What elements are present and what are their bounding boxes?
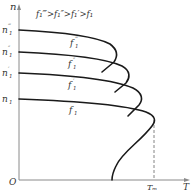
curve-label-f1-double-prime: f ″ 1 (67, 56, 77, 70)
svg-text:1: 1 (75, 43, 79, 49)
svg-text:1: 1 (73, 64, 77, 70)
svg-text:‴: ‴ (8, 22, 12, 29)
svg-text:1: 1 (9, 30, 13, 36)
svg-text:1: 1 (73, 85, 77, 91)
svg-text:′: ′ (73, 77, 75, 84)
speed-label-n1: n 1 (2, 94, 13, 105)
svg-text:1: 1 (74, 110, 78, 116)
torque-speed-diagram: n f₁‴>f₁″>f₁′>f₁ n ‴ 1 n ″ 1 n ′ 1 n 1 f… (0, 0, 195, 196)
frequency-relation-text: f₁‴>f₁″>f₁′>f₁ (35, 9, 93, 19)
speed-label-n1-double-prime: n ″ 1 (2, 44, 13, 58)
svg-text:′: ′ (8, 65, 10, 72)
curve-f1 (19, 99, 154, 180)
svg-text:″: ″ (73, 56, 76, 63)
svg-text:n: n (2, 94, 8, 104)
curve-label-f1-triple-prime: f ‴ 1 (69, 35, 79, 49)
curve-f1-prime (19, 73, 141, 116)
y-axis-label: n (10, 1, 16, 12)
svg-text:″: ″ (8, 44, 11, 51)
curve-label-f1-prime: f ′ 1 (67, 77, 77, 91)
diagram-canvas: n f₁‴>f₁″>f₁′>f₁ n ‴ 1 n ″ 1 n ′ 1 n 1 f… (0, 0, 195, 196)
curve-label-f1: f 1 (68, 105, 78, 116)
svg-text:1: 1 (9, 73, 13, 79)
y-axis-arrow-icon (17, 4, 21, 10)
svg-text:1: 1 (9, 52, 13, 58)
tm-label: Tₘ (147, 183, 157, 192)
speed-label-n1-prime: n ′ 1 (2, 65, 13, 79)
x-axis-label: T (183, 182, 190, 192)
speed-label-n1-triple-prime: n ‴ 1 (2, 22, 13, 36)
origin-label: O (9, 177, 17, 187)
svg-text:1: 1 (9, 99, 13, 105)
